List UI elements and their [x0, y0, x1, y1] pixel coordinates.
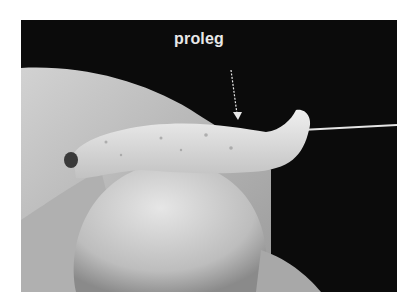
photo-scene — [21, 20, 397, 292]
larva-head — [64, 152, 78, 168]
proleg-label: proleg — [174, 30, 224, 48]
photograph — [21, 20, 397, 292]
arrow-head-icon — [233, 112, 242, 120]
probe — [301, 125, 397, 130]
arrow-shaft — [231, 70, 237, 114]
